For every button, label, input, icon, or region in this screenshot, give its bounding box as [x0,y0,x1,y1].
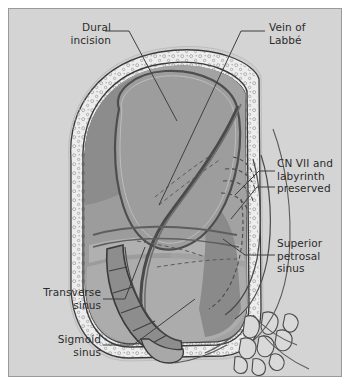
label-sigmoid-sinus: Sigmoid sinus [11,333,101,358]
figure-panel: Dural incision Vein of Labbé CN VII and … [8,8,342,377]
label-superior-petrosal-sinus: Superior petrosal sinus [277,237,342,275]
label-transverse-sinus: Transverse sinus [11,286,101,311]
label-dural-incision: Dural incision [29,21,111,46]
label-vein-of-labbe: Vein of Labbé [269,21,339,46]
label-cn-vii-labyrinth-preserved: CN VII and labyrinth preserved [277,157,342,195]
